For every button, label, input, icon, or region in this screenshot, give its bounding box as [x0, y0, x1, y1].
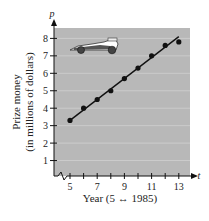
y-tick-label: 7	[43, 50, 48, 61]
y-axis-title-line2: (in millions of dollars)	[23, 52, 36, 152]
car-wing	[108, 38, 117, 41]
x-tick-label: 9	[122, 181, 127, 192]
y-tick-label: 4	[43, 103, 48, 114]
data-point	[122, 76, 127, 81]
data-point	[95, 97, 100, 102]
y-tick-label: 8	[43, 33, 48, 44]
y-tick-label: 3	[43, 120, 48, 131]
chart: 123456785791113 Prize money (in millions…	[0, 0, 209, 221]
y-tick-label: 1	[43, 155, 48, 166]
data-point	[108, 88, 113, 93]
x-tick-label: 7	[95, 181, 100, 192]
y-axis-arrow	[51, 19, 57, 26]
x-tick-label: 11	[147, 181, 157, 192]
data-point	[81, 106, 86, 111]
data-point	[67, 118, 72, 123]
x-axis-letter: t	[198, 170, 201, 181]
x-axis-title: Year (5 ↔ 1985)	[83, 192, 158, 205]
data-point	[149, 53, 154, 58]
y-tick-label: 2	[43, 138, 48, 149]
y-tick-label: 6	[43, 68, 48, 79]
car-rear-wheel	[78, 47, 85, 54]
data-point	[176, 39, 181, 44]
y-axis-letter: p	[49, 8, 55, 19]
car-front-wheel	[108, 46, 116, 54]
y-axis-title-line1: Prize money	[10, 74, 22, 130]
x-tick-label: 13	[174, 181, 184, 192]
x-tick-label: 5	[68, 181, 73, 192]
data-point	[135, 65, 140, 70]
y-tick-label: 5	[43, 85, 48, 96]
data-point	[163, 43, 168, 48]
